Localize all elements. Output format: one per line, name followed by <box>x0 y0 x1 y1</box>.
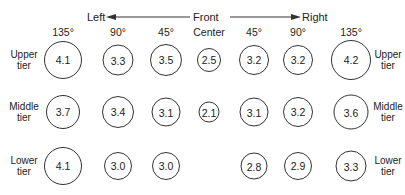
tier-label-line1: Upper <box>374 49 401 60</box>
front-direction-label: Front <box>193 11 219 23</box>
left-direction-label: Left <box>87 11 105 23</box>
tier-label-line2: tier <box>9 112 38 123</box>
tier-label-line1: Middle <box>373 101 402 112</box>
value-circle-middle-center: 2.1 <box>199 102 220 123</box>
value-circle-lower-right-90: 2.9 <box>284 152 312 180</box>
tier-label-line2: tier <box>10 166 37 177</box>
column-label-left-135: 135° <box>52 26 74 38</box>
value-circle-upper-center: 2.5 <box>197 48 221 72</box>
column-label-left-90: 90° <box>110 26 126 38</box>
value-circle-lower-left-135: 4.1 <box>44 147 82 185</box>
tier-label-upper-right: Upper tier <box>374 49 401 71</box>
value-circle-middle-left-90: 3.4 <box>102 96 134 128</box>
tier-label-line1: Middle <box>9 101 38 112</box>
column-label-right-90: 90° <box>290 26 306 38</box>
column-label-right-135: 135° <box>340 26 362 38</box>
column-label-left-45: 45° <box>158 26 174 38</box>
tier-label-line1: Lower <box>374 155 401 166</box>
value-circle-lower-right-135: 3.3 <box>336 151 367 182</box>
tier-label-upper-left: Upper tier <box>10 49 37 71</box>
tier-label-line1: Lower <box>10 155 37 166</box>
value-circle-middle-right-45: 3.1 <box>240 98 269 127</box>
value-circle-middle-left-45: 3.1 <box>152 98 181 127</box>
value-circle-middle-right-135: 3.6 <box>334 95 369 130</box>
tier-label-line2: tier <box>374 166 401 177</box>
tier-label-line2: tier <box>374 60 401 71</box>
column-label-center: Center <box>193 26 225 38</box>
value-circle-lower-left-90: 3.0 <box>104 152 132 180</box>
column-label-right-45: 45° <box>246 26 262 38</box>
right-direction-label: Right <box>302 11 328 23</box>
value-circle-upper-left-135: 4.1 <box>44 41 82 79</box>
value-circle-lower-left-45: 3.0 <box>152 152 180 180</box>
tier-label-line2: tier <box>10 60 37 71</box>
tier-label-lower-left: Lower tier <box>10 155 37 177</box>
value-circle-upper-left-90: 3.3 <box>103 45 134 76</box>
tier-label-line1: Upper <box>10 49 37 60</box>
value-circle-upper-right-45: 3.2 <box>239 45 269 75</box>
value-circle-lower-right-45: 2.8 <box>241 153 268 180</box>
value-circle-upper-right-90: 3.2 <box>283 45 313 75</box>
tier-label-middle-left: Middle tier <box>9 101 38 123</box>
tier-label-line2: tier <box>373 112 402 123</box>
value-circle-upper-right-135: 4.2 <box>331 40 371 80</box>
value-circle-middle-left-135: 3.7 <box>46 95 80 129</box>
value-circle-upper-left-45: 3.5 <box>150 44 182 76</box>
tier-label-middle-right: Middle tier <box>373 101 402 123</box>
tier-label-lower-right: Lower tier <box>374 155 401 177</box>
value-circle-middle-right-90: 3.2 <box>283 97 313 127</box>
